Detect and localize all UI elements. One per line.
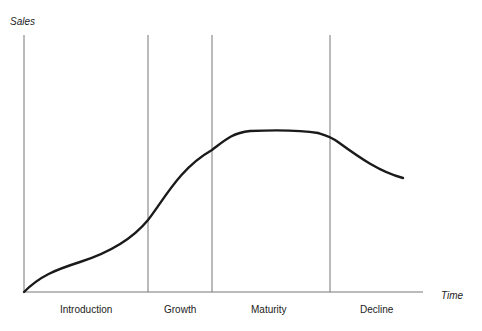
x-axis-label: Time: [441, 290, 463, 301]
stage-introduction-label: Introduction: [60, 304, 112, 315]
stage-decline-label: Decline: [360, 304, 393, 315]
y-axis-label: Sales: [10, 16, 35, 27]
life-cycle-diagram: [0, 0, 482, 331]
sales-curve: [24, 130, 403, 292]
stage-growth-label: Growth: [164, 304, 196, 315]
stage-maturity-label: Maturity: [251, 304, 287, 315]
